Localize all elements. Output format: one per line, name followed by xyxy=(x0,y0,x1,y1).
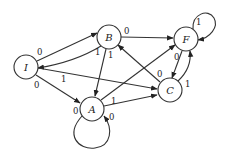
node-b-label: B xyxy=(104,32,112,43)
edge-b-to-f xyxy=(121,37,173,38)
edge-label-b-to-i: 1 xyxy=(95,47,100,57)
edge-c-to-b xyxy=(118,45,160,82)
edge-i-to-a xyxy=(36,75,80,103)
edge-label-a-self-loop-left: 0 xyxy=(73,106,78,116)
edge-label-b-to-f: 0 xyxy=(124,26,129,36)
edge-label-c-to-f: 1 xyxy=(185,79,190,89)
node-b: B xyxy=(97,25,121,49)
edge-label-i-to-c: 1 xyxy=(61,74,66,84)
edge-b-to-i xyxy=(38,46,101,68)
edge-label-a-self-loop-right: 0 xyxy=(109,112,114,122)
edge-label-i-to-b: 0 xyxy=(37,47,42,57)
node-f-label: F xyxy=(182,34,191,45)
node-c: C xyxy=(158,78,182,102)
edge-label-f-to-c: 0 xyxy=(174,52,179,62)
edge-label-c-to-b: 0 xyxy=(157,69,162,79)
node-f: F xyxy=(174,27,198,51)
edge-label-i-to-a: 0 xyxy=(34,80,39,90)
state-diagram: 0 1 0 1 0 1 1 0 0 0 0 1 xyxy=(0,0,227,155)
edge-label-f-self-loop: 1 xyxy=(196,17,201,27)
node-a-label: A xyxy=(87,104,95,115)
edge-i-to-b xyxy=(37,33,97,61)
node-a: A xyxy=(80,97,104,121)
node-i: I xyxy=(14,55,38,79)
edge-label-b-to-a: 1 xyxy=(108,50,113,60)
node-c-label: C xyxy=(166,85,174,96)
edge-label-a-to-c: 1 xyxy=(111,96,116,106)
